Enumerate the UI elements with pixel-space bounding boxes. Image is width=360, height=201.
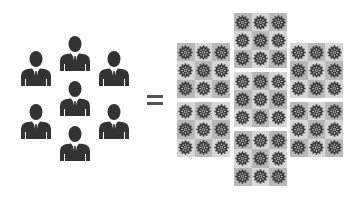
gear-icon [308, 43, 326, 61]
gear-icon [234, 168, 252, 186]
gear-icon [325, 61, 343, 79]
gear-icon [252, 168, 270, 186]
gear-icon [325, 102, 343, 120]
gear-icon [195, 80, 213, 98]
gear-icon [308, 80, 326, 98]
gear-block [177, 102, 230, 157]
gear-icon [308, 120, 326, 138]
gear-icon [234, 72, 252, 90]
gear-icon [177, 120, 195, 138]
gear-icon [325, 43, 343, 61]
businessman-icon [57, 80, 93, 116]
gear-icon [290, 139, 308, 157]
gear-icon [195, 120, 213, 138]
gear-icon [195, 139, 213, 157]
gear-icon [269, 149, 287, 167]
gear-icon [290, 61, 308, 79]
gear-block [177, 43, 230, 98]
gear-icon [234, 109, 252, 127]
gear-icon [325, 139, 343, 157]
gear-icon [177, 43, 195, 61]
gear-icon [269, 13, 287, 31]
gear-icon [308, 61, 326, 79]
gear-block [234, 72, 287, 127]
gear-icon [177, 102, 195, 120]
gear-block [234, 131, 287, 186]
gear-icon [290, 102, 308, 120]
gear-icon [234, 90, 252, 108]
gear-icon [234, 50, 252, 68]
gear-icon [252, 131, 270, 149]
businessman-icon [57, 35, 93, 71]
gear-icon [290, 43, 308, 61]
gear-icon [269, 168, 287, 186]
gear-icon [290, 80, 308, 98]
gear-icon [308, 102, 326, 120]
gear-block [290, 43, 343, 98]
gear-icon [177, 80, 195, 98]
gear-icon [325, 80, 343, 98]
gear-icon [252, 72, 270, 90]
gear-icon [308, 139, 326, 157]
gear-icon [290, 120, 308, 138]
businessman-icon [57, 125, 93, 161]
gear-icon [212, 120, 230, 138]
gear-icon [252, 149, 270, 167]
gear-icon [195, 61, 213, 79]
businessman-icon [96, 103, 132, 139]
gear-icon [195, 102, 213, 120]
gear-icon [252, 109, 270, 127]
gear-icon [269, 90, 287, 108]
gear-icon [252, 50, 270, 68]
gear-icon [269, 109, 287, 127]
gear-icon [269, 31, 287, 49]
gear-icon [212, 61, 230, 79]
businessman-icon [18, 50, 54, 86]
gear-icon [195, 43, 213, 61]
gear-icon [212, 102, 230, 120]
gear-icon [234, 149, 252, 167]
gear-block [290, 102, 343, 157]
equals-sign-top [147, 95, 163, 98]
gear-icon [212, 43, 230, 61]
gear-icon [234, 31, 252, 49]
gear-icon [212, 139, 230, 157]
gear-icon [234, 13, 252, 31]
businessman-icon [96, 50, 132, 86]
gear-icon [269, 131, 287, 149]
gear-icon [325, 120, 343, 138]
gear-icon [269, 72, 287, 90]
gear-icon [269, 50, 287, 68]
gear-block [234, 13, 287, 68]
businessman-icon [18, 103, 54, 139]
gear-icon [252, 13, 270, 31]
gear-icon [234, 131, 252, 149]
gear-icon [177, 61, 195, 79]
gear-icon [212, 80, 230, 98]
gear-icon [177, 139, 195, 157]
equals-sign-bottom [147, 102, 163, 105]
gear-icon [252, 90, 270, 108]
gear-icon [252, 31, 270, 49]
